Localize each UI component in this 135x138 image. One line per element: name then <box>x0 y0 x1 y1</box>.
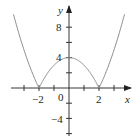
y-tick-label-8: 8 <box>56 21 62 33</box>
x-tick-label-neg2: −2 <box>32 93 44 105</box>
y-tick-label-4: 4 <box>56 51 62 63</box>
y-axis-label: y <box>57 4 63 16</box>
x-axis-label: x <box>124 93 130 105</box>
function-graph: y x 0 8 4 −4 −2 2 <box>0 0 135 138</box>
x-tick-label-2: 2 <box>96 93 102 105</box>
origin-label: 0 <box>58 91 64 103</box>
y-tick-label-neg4: −4 <box>51 113 63 125</box>
